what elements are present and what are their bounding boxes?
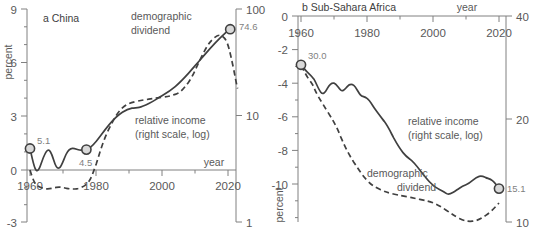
panel-a-right-tick-10: 10: [246, 110, 259, 122]
panel-b-right-tick-40: 40: [516, 11, 529, 23]
panel-b-annot-demographic-line2: dividend: [397, 181, 436, 193]
panel-b-xtick-2020: 2020: [486, 27, 512, 39]
panel-a-relative-income-line: [30, 29, 230, 170]
panel-b-xtick-2000: 2000: [420, 27, 446, 39]
panel-a-marker-1976: [82, 145, 91, 154]
panel-b-marker-2020: [494, 184, 503, 193]
panel-b-xaxis-label: year: [457, 1, 478, 13]
panel-a-marker-label-74-6: 74.6: [239, 21, 258, 32]
panel-a-xtick-2020: 2020: [215, 180, 241, 192]
panel-b-demographic-dividend-line: [301, 66, 499, 222]
panel-a-right-tick-100: 100: [246, 4, 265, 16]
panel-africa-svg: 0 -2 -4 -6 -8 -10 percent 40 20 10: [267, 0, 534, 235]
panel-a-title: a China: [43, 12, 79, 24]
panel-b-x-minor-ticks: [334, 16, 466, 20]
panel-a-ytick-3: 3: [11, 111, 17, 123]
panel-a-yaxis-label: percent: [2, 44, 14, 79]
panel-b-ytick-neg2: -2: [278, 44, 288, 56]
panel-sub-sahara-africa: 0 -2 -4 -6 -8 -10 percent 40 20 10: [267, 0, 534, 235]
panel-china: 9 6 3 0 -3 percent 100 10 1: [0, 0, 267, 235]
panel-b-annot-demographic-line1: demographic: [367, 167, 428, 179]
panel-b-xtick-1960: 1960: [288, 27, 314, 39]
panel-b-annot-relative-income-line1: relative income: [408, 115, 479, 127]
panel-a-marker-2018: [226, 25, 235, 34]
panel-b-yaxis-label: percent: [273, 187, 285, 222]
panel-b-xtick-1980: 1980: [354, 27, 380, 39]
panel-a-xaxis-label: year: [204, 156, 225, 168]
panel-a-marker-label-5-1: 5.1: [37, 135, 50, 146]
panel-b-ytick-neg6: -6: [278, 111, 288, 123]
panel-b-marker-label-30-0: 30.0: [308, 50, 327, 61]
panel-b-annot-relative-income-line2: (right scale, log): [408, 129, 483, 141]
panel-a-xtick-2000: 2000: [149, 180, 175, 192]
panel-a-right-tick-1: 1: [246, 217, 252, 229]
panel-b-right-tick-20: 20: [516, 114, 529, 126]
panel-a-xtick-1980: 1980: [83, 180, 109, 192]
panel-a-marker-1960: [25, 144, 34, 153]
panel-a-annot-demographic-line1: demographic: [131, 10, 192, 22]
panel-a-ytick-neg3: -3: [7, 217, 17, 229]
panel-b-marker-1960: [296, 60, 305, 69]
panel-b-title: b Sub-Sahara Africa: [302, 1, 396, 13]
panel-a-annot-relative-income-line1: relative income: [135, 114, 206, 126]
panel-china-svg: 9 6 3 0 -3 percent 100 10 1: [0, 0, 267, 235]
panel-a-annot-relative-income-line2: (right scale, log): [135, 128, 210, 140]
figure-root: 9 6 3 0 -3 percent 100 10 1: [0, 0, 534, 235]
panel-a-marker-label-4-5: 4.5: [79, 157, 92, 168]
panel-a-annot-demographic-line2: dividend: [131, 24, 170, 36]
panel-b-marker-label-15-1: 15.1: [507, 183, 526, 194]
panel-b-ytick-0: 0: [282, 11, 288, 23]
panel-b-ytick-neg4: -4: [278, 78, 289, 90]
panel-b-ytick-neg8: -8: [278, 145, 288, 157]
panel-b-right-tick-10: 10: [516, 217, 529, 229]
panel-a-ytick-0: 0: [11, 165, 17, 177]
panel-a-x-minor-ticks: [63, 170, 195, 174]
panel-a-ytick-9: 9: [11, 4, 17, 16]
